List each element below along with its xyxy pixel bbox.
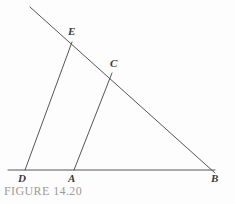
vertex-label-a: A (68, 173, 75, 184)
geometry-drawing (0, 0, 235, 204)
vertex-label-e: E (68, 26, 75, 37)
figure-caption: FIGURE 14.20 (4, 184, 82, 199)
segment-AC-line (74, 73, 112, 170)
vertex-label-d: D (18, 173, 26, 184)
vertex-label-c: C (110, 58, 117, 69)
vertex-label-b: B (211, 173, 218, 184)
figure-container: E C D A B FIGURE 14.20 (0, 0, 235, 204)
transversal-ray-line (30, 7, 215, 173)
segment-DE-line (25, 42, 72, 170)
